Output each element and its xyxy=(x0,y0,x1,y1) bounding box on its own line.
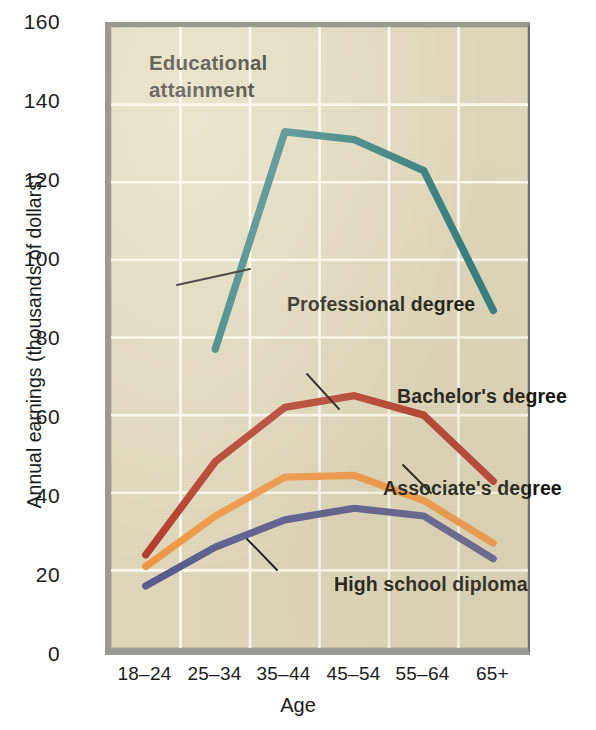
x-tick-35-44: 35–44 xyxy=(243,663,324,685)
x-tick-65-plus: 65+ xyxy=(452,663,533,685)
x-tick-55-64: 55–64 xyxy=(382,663,463,685)
leader-line-highschool xyxy=(247,539,277,570)
chart-canvas xyxy=(111,27,528,648)
plot-title: Educational attainment xyxy=(149,49,267,103)
y-tick-160: 160 xyxy=(0,10,60,34)
chart-figure: 160 140 120 100 80 60 40 20 0 Annual ear… xyxy=(0,0,596,730)
y-tick-0: 0 xyxy=(0,642,60,666)
series-label-associates-degree: Associate's degree xyxy=(383,477,562,500)
series-label-professional-degree: Professional degree xyxy=(287,293,475,316)
series-line-professional-degree xyxy=(215,132,493,349)
series-label-bachelors-degree: Bachelor's degree xyxy=(397,385,567,408)
series-label-high-school-diploma: High school diploma xyxy=(334,573,528,596)
plot-title-line-1: Educational xyxy=(149,49,267,76)
plot-title-line-2: attainment xyxy=(149,76,267,103)
x-axis-title: Age xyxy=(0,694,596,717)
plot-area: Educational attainment Professional degr… xyxy=(105,22,530,655)
y-axis-title: Annual earnings (thousands of dollars) xyxy=(23,62,46,622)
x-tick-18-24: 18–24 xyxy=(104,663,185,685)
